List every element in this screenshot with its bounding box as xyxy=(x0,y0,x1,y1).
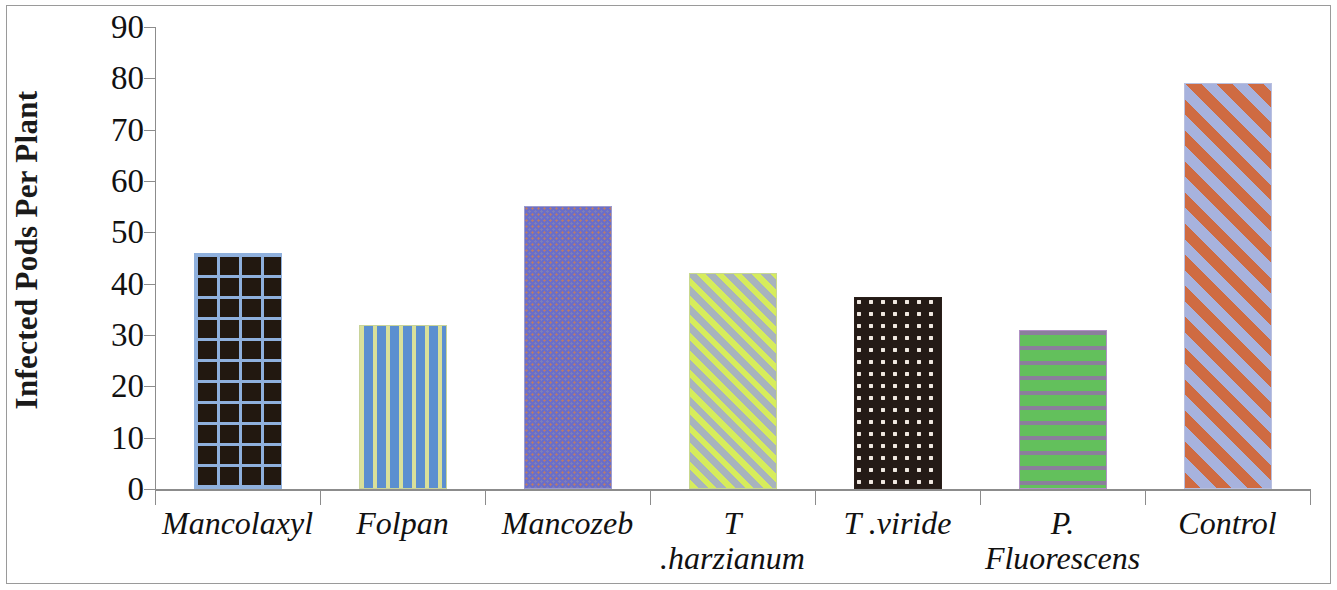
plot-area xyxy=(155,27,1310,489)
y-axis-tick-label: 20 xyxy=(72,370,144,403)
bar-t-harzianum xyxy=(689,273,777,489)
y-axis-tick-label: 80 xyxy=(72,62,144,95)
bar-p-fluorescens xyxy=(1019,330,1107,489)
x-axis-tick-label: T .viride xyxy=(815,506,980,541)
y-axis-label-container: Infected Pods Per Plant xyxy=(0,0,54,500)
bar-control xyxy=(1184,83,1272,489)
bar-t-viride xyxy=(854,297,942,490)
y-axis-tick-label: 0 xyxy=(72,473,144,506)
x-axis-tick-mark xyxy=(155,491,156,505)
x-axis-tick-mark xyxy=(815,491,816,505)
y-axis-tick-label: 30 xyxy=(72,319,144,352)
x-axis-tick-label: Mancozeb xyxy=(485,506,650,541)
x-axis-tick-mark xyxy=(1310,491,1311,505)
bar-mancolaxyl xyxy=(194,253,282,489)
y-axis-tick-labels: 9080706050403020100 xyxy=(60,0,144,590)
figure-root: Infected Pods Per Plant 9080706050403020… xyxy=(0,0,1337,590)
x-axis-tick-label: Control xyxy=(1145,506,1310,541)
y-axis-tick-label: 10 xyxy=(72,421,144,454)
x-axis-tick-label: P. Fluorescens xyxy=(980,506,1145,575)
y-axis-tick-label: 40 xyxy=(72,267,144,300)
y-axis-label: Infected Pods Per Plant xyxy=(9,91,45,410)
x-axis-tick-label: Folpan xyxy=(320,506,485,541)
x-axis-tick-label: T .harzianum xyxy=(650,506,815,575)
x-axis-tick-mark xyxy=(980,491,981,505)
y-axis-tick-label: 70 xyxy=(72,113,144,146)
x-axis-tick-mark xyxy=(650,491,651,505)
x-axis-tick-label: Mancolaxyl xyxy=(155,506,320,541)
bar-mancozeb xyxy=(524,206,612,489)
y-axis-tick-label: 50 xyxy=(72,216,144,249)
y-axis-tick-label: 90 xyxy=(72,11,144,44)
x-axis-line xyxy=(155,489,1311,491)
y-axis-tick-label: 60 xyxy=(72,165,144,198)
bar-folpan xyxy=(359,325,447,489)
x-axis-tick-mark xyxy=(320,491,321,505)
x-axis-tick-mark xyxy=(485,491,486,505)
x-axis-tick-mark xyxy=(1145,491,1146,505)
